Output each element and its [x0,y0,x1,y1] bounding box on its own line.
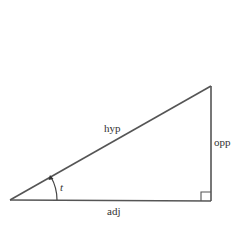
hypotenuse-label: hyp [104,122,121,134]
adjacent-side-line [10,200,211,201]
angle-label: t [60,181,64,193]
right-angle-marker-icon [201,192,211,201]
hypotenuse-line [10,86,211,200]
opposite-label: opp [214,136,231,148]
adjacent-label: adj [107,205,120,217]
right-triangle-diagram: hyp opp adj t [0,0,243,228]
angle-arc-icon [51,177,57,200]
